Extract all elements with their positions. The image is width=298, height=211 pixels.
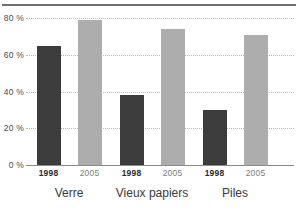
bar-vieux-papiers-2005 <box>161 29 185 165</box>
y-axis-tick-label: 40 % <box>0 87 24 97</box>
bar-piles-2005 <box>244 35 268 165</box>
year-label: 2005 <box>236 168 276 178</box>
x-axis-baseline <box>26 165 294 166</box>
year-label: 2005 <box>153 168 193 178</box>
y-axis-tick-label: 0 % <box>0 160 24 170</box>
bar-vieux-papiers-1998 <box>120 95 144 165</box>
y-axis-tick-label: 20 % <box>0 123 24 133</box>
bar-verre-1998 <box>37 46 61 165</box>
bar-verre-2005 <box>78 20 102 165</box>
y-axis-tick-label: 60 % <box>0 50 24 60</box>
year-label: 1998 <box>112 168 152 178</box>
top-rule-divider <box>2 4 296 6</box>
bar-piles-1998 <box>203 110 227 165</box>
y-axis-tick-label: 80 % <box>0 13 24 23</box>
gridline <box>26 18 294 19</box>
group-label-piles: Piles <box>175 186 295 200</box>
bar-chart: 80 %60 %40 %20 %0 % 19982005199820051998… <box>0 0 298 211</box>
year-label: 1998 <box>29 168 69 178</box>
year-label: 2005 <box>70 168 110 178</box>
year-label: 1998 <box>195 168 235 178</box>
